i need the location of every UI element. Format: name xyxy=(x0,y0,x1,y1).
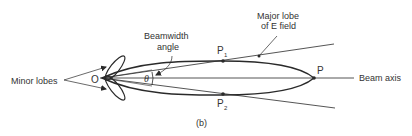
point-p1 xyxy=(221,59,225,63)
point-p xyxy=(312,76,316,80)
figure-caption: (b) xyxy=(196,118,207,128)
point-p2 xyxy=(221,92,225,96)
beamwidth-leader xyxy=(156,56,172,75)
label-beamwidth-1: Beamwidth xyxy=(144,31,189,41)
radiation-pattern-diagram: Minor lobes O Beamwidth angle θ P 1 P 2 … xyxy=(0,0,412,136)
label-p1-sub: 1 xyxy=(224,52,228,58)
label-origin: O xyxy=(91,74,99,85)
label-p2-sub: 2 xyxy=(224,105,228,111)
label-p1: P xyxy=(217,45,224,56)
label-p: P xyxy=(317,65,324,76)
label-minor-lobes: Minor lobes xyxy=(11,76,58,86)
label-major-lobe-2: of E field xyxy=(261,21,296,31)
minor-lobes-pointer-lower xyxy=(64,80,106,89)
minor-lobes-pointer-upper xyxy=(64,67,106,80)
label-beamwidth-2: angle xyxy=(157,42,179,52)
point-major-lobe xyxy=(258,55,261,58)
label-theta: θ xyxy=(144,73,149,84)
beamwidth-arc xyxy=(152,72,153,85)
label-beam-axis: Beam axis xyxy=(359,73,402,83)
label-major-lobe-1: Major lobe xyxy=(257,11,299,21)
label-p2: P xyxy=(217,98,224,109)
